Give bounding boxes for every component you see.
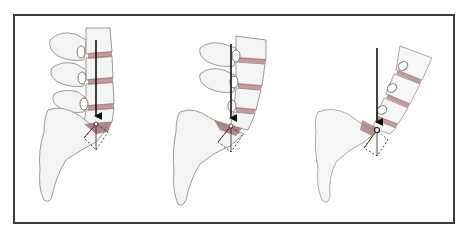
panel-3	[315, 46, 432, 202]
spine-diagrams	[0, 0, 467, 228]
panel-1	[40, 28, 115, 201]
panel-2	[173, 36, 266, 205]
